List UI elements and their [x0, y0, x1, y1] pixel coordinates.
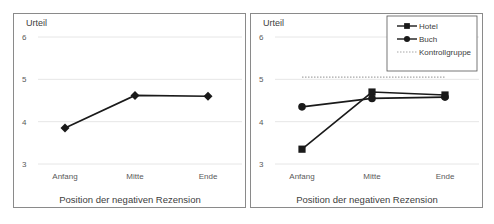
- x-tick-label: Anfang: [289, 172, 314, 181]
- y-tick-label: 5: [259, 75, 264, 84]
- circle-marker-icon: [441, 93, 449, 101]
- x-tick-label: Ende: [436, 172, 455, 181]
- chart-panel-right: Urteil3456AnfangMitteEndePosition der ne…: [250, 13, 483, 208]
- diamond-marker-icon: [61, 124, 70, 133]
- series-line-gesamt: [65, 95, 208, 128]
- y-tick-label: 3: [22, 160, 27, 169]
- square-marker-icon: [298, 146, 305, 153]
- square-marker-icon: [368, 88, 375, 95]
- x-tick-label: Anfang: [52, 172, 77, 181]
- y-axis-label: Urteil: [263, 18, 284, 28]
- diamond-marker-icon: [204, 92, 213, 101]
- y-tick-label: 4: [22, 118, 27, 127]
- legend: HotelBuchKontrollgruppe: [387, 16, 477, 71]
- y-tick-label: 3: [259, 160, 264, 169]
- circle-marker-icon: [368, 95, 376, 103]
- x-tick-label: Mitte: [363, 172, 381, 181]
- y-tick-label: 5: [22, 75, 27, 84]
- x-tick-label: Ende: [199, 172, 218, 181]
- x-tick-label: Mitte: [126, 172, 144, 181]
- line-chart-left: Urteil3456AnfangMitteEndePosition der ne…: [14, 14, 247, 209]
- y-tick-label: 4: [259, 118, 264, 127]
- y-tick-label: 6: [259, 33, 264, 42]
- legend-label-buch: Buch: [419, 35, 437, 44]
- diamond-marker-icon: [131, 91, 140, 100]
- chart-panel-left: Urteil3456AnfangMitteEndePosition der ne…: [13, 13, 246, 208]
- square-marker-icon: [404, 23, 410, 29]
- x-axis-title: Position der negativen Rezension: [59, 194, 201, 205]
- line-chart-right: Urteil3456AnfangMitteEndePosition der ne…: [251, 14, 484, 209]
- legend-label-kontrollgruppe: Kontrollgruppe: [419, 48, 472, 57]
- y-axis-label: Urteil: [26, 18, 47, 28]
- circle-marker-icon: [404, 36, 410, 42]
- x-axis-title: Position der negativen Rezension: [296, 194, 438, 205]
- legend-label-hotel: Hotel: [419, 22, 438, 31]
- y-tick-label: 6: [22, 33, 27, 42]
- circle-marker-icon: [298, 103, 306, 111]
